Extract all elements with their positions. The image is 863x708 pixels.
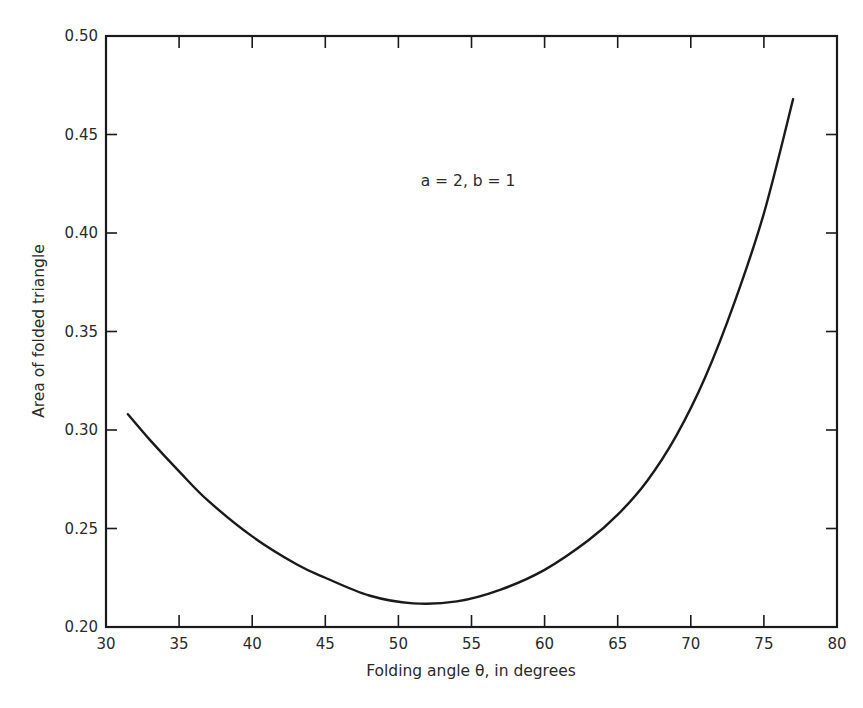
- y-axis-ticks: 0.200.250.300.350.400.450.50: [65, 27, 837, 636]
- x-tick-label: 35: [170, 635, 189, 653]
- y-tick-label: 0.20: [65, 618, 98, 636]
- chart: 3035404550556065707580 0.200.250.300.350…: [0, 0, 863, 708]
- annotation-label: a = 2, b = 1: [421, 172, 516, 190]
- y-tick-label: 0.50: [65, 27, 98, 45]
- x-tick-label: 55: [462, 635, 481, 653]
- x-tick-label: 70: [681, 635, 700, 653]
- y-tick-label: 0.30: [65, 421, 98, 439]
- x-tick-label: 45: [316, 635, 335, 653]
- y-tick-label: 0.45: [65, 126, 98, 144]
- x-tick-label: 30: [96, 635, 115, 653]
- x-tick-label: 65: [608, 635, 627, 653]
- x-tick-label: 80: [827, 635, 846, 653]
- x-tick-label: 40: [243, 635, 262, 653]
- x-tick-label: 75: [754, 635, 773, 653]
- x-tick-label: 50: [389, 635, 408, 653]
- y-tick-label: 0.35: [65, 323, 98, 341]
- plot-frame: [106, 36, 837, 627]
- y-tick-label: 0.40: [65, 224, 98, 242]
- y-tick-label: 0.25: [65, 520, 98, 538]
- x-axis-label: Folding angle θ, in degrees: [366, 662, 576, 680]
- x-tick-label: 60: [535, 635, 554, 653]
- x-axis-ticks: 3035404550556065707580: [96, 36, 846, 653]
- y-axis-label: Area of folded triangle: [30, 244, 48, 418]
